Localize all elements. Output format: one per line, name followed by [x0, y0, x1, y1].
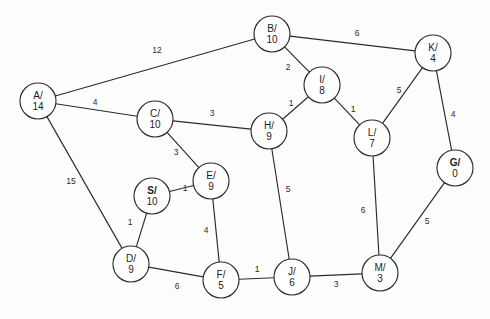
edge-g-m — [390, 183, 444, 259]
graph-diagram-canvas: 1241562331146131515465 A/14B/10C/10D/9E/… — [0, 0, 490, 319]
node-d[interactable]: D/9 — [113, 246, 149, 282]
edge-weight-a-b: 12 — [152, 45, 162, 55]
edge-weight-g-m: 5 — [425, 216, 430, 226]
node-b[interactable]: B/10 — [254, 16, 290, 52]
node-f[interactable]: F/5 — [203, 262, 239, 298]
node-value-label-k: 4 — [430, 53, 436, 64]
node-id-label-g: G/ — [450, 157, 461, 168]
edge-j-m — [310, 274, 362, 276]
node-value-label-b: 10 — [266, 34, 278, 45]
node-e[interactable]: E/9 — [193, 163, 229, 199]
edge-f-j — [239, 278, 274, 279]
node-value-label-i: 8 — [319, 85, 325, 96]
edge-weight-b-k: 6 — [355, 28, 360, 38]
node-value-label-e: 9 — [208, 181, 214, 192]
graph-svg: 1241562331146131515465 A/14B/10C/10D/9E/… — [0, 0, 490, 319]
node-i[interactable]: I/8 — [304, 67, 340, 103]
node-k[interactable]: K/4 — [415, 35, 451, 71]
edge-e-f — [213, 199, 219, 262]
node-value-label-f: 5 — [218, 280, 224, 291]
node-id-label-d: D/ — [126, 253, 136, 264]
nodes-layer: A/14B/10C/10D/9E/9F/5G/0H/9I/8J/6K/4L/7M… — [20, 16, 473, 298]
node-id-label-j: J/ — [288, 266, 296, 277]
edge-weight-s-e: 1 — [183, 183, 188, 193]
node-a[interactable]: A/14 — [20, 83, 56, 119]
edge-weight-k-g: 4 — [451, 109, 456, 119]
node-value-label-a: 14 — [32, 101, 44, 112]
edges-layer — [47, 36, 452, 279]
edge-weight-e-f: 4 — [204, 225, 209, 235]
node-j[interactable]: J/6 — [274, 259, 310, 295]
node-id-label-s: S/ — [147, 185, 157, 196]
edge-k-g — [436, 71, 451, 151]
edge-b-k — [290, 36, 415, 51]
edge-weight-h-j: 5 — [286, 184, 291, 194]
node-id-label-f: F/ — [217, 269, 226, 280]
edge-h-i — [283, 97, 309, 119]
node-h[interactable]: H/9 — [251, 113, 287, 149]
edge-h-j — [272, 149, 289, 259]
edge-weight-s-d: 1 — [128, 217, 133, 227]
node-m[interactable]: M/3 — [362, 255, 398, 291]
node-value-label-m: 3 — [377, 273, 383, 284]
edge-weight-c-e: 3 — [174, 147, 179, 157]
edge-weight-i-l: 1 — [351, 104, 356, 114]
node-value-label-j: 6 — [289, 277, 295, 288]
edge-d-f — [149, 267, 204, 277]
node-value-label-s: 10 — [146, 196, 158, 207]
edge-weight-k-l: 5 — [397, 85, 402, 95]
edge-k-l — [382, 68, 422, 124]
edge-weight-h-i: 1 — [289, 98, 294, 108]
edge-c-h — [173, 121, 251, 129]
edge-i-l — [334, 98, 359, 125]
node-id-label-c: C/ — [150, 108, 160, 119]
node-value-label-h: 9 — [266, 131, 272, 142]
edge-s-d — [136, 213, 146, 247]
node-value-label-g: 0 — [452, 168, 458, 179]
edge-s-e — [169, 185, 193, 191]
edge-l-m — [373, 156, 379, 255]
edge-c-e — [167, 132, 199, 167]
node-value-label-l: 7 — [369, 138, 375, 149]
node-value-label-d: 9 — [128, 264, 134, 275]
node-s[interactable]: S/10 — [134, 178, 170, 214]
edge-weight-j-m: 3 — [334, 279, 339, 289]
node-value-label-c: 10 — [149, 119, 161, 130]
edge-weight-d-f: 6 — [175, 281, 180, 291]
node-id-label-e: E/ — [206, 170, 216, 181]
node-id-label-a: A/ — [33, 90, 43, 101]
node-id-label-b: B/ — [267, 23, 277, 34]
node-id-label-l: L/ — [368, 127, 377, 138]
node-id-label-h: H/ — [264, 120, 274, 131]
edge-weight-f-j: 1 — [255, 264, 260, 274]
node-g[interactable]: G/0 — [437, 150, 473, 186]
node-l[interactable]: L/7 — [354, 120, 390, 156]
edge-weight-a-d: 15 — [66, 176, 76, 186]
node-id-label-i: I/ — [319, 74, 325, 85]
edge-weight-a-c: 4 — [93, 97, 98, 107]
edge-weight-l-m: 6 — [361, 205, 366, 215]
node-c[interactable]: C/10 — [137, 101, 173, 137]
node-id-label-k: K/ — [428, 42, 438, 53]
edge-weight-b-i: 2 — [286, 62, 291, 72]
edge-weight-c-h: 3 — [210, 108, 215, 118]
edge-a-d — [47, 117, 122, 249]
node-id-label-m: M/ — [374, 262, 385, 273]
